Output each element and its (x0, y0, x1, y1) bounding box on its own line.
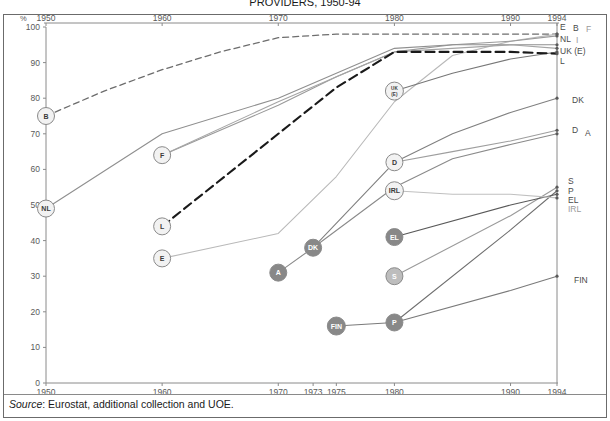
y-tick-label: 90 (31, 58, 41, 68)
series-line-l (162, 52, 557, 226)
x-tick-bottom-label: 1950 (37, 387, 56, 397)
x-tick-top-label: 1950 (37, 13, 56, 23)
series-line-uke (394, 52, 557, 91)
source-note: Source: Eurostat, additional collection … (9, 398, 234, 410)
end-label-nl: NL (560, 34, 571, 44)
series-endpoint-a (555, 132, 558, 135)
end-label-fin: FIN (574, 275, 588, 285)
x-tick-bottom-label: 1960 (153, 387, 172, 397)
end-label-dk: DK (572, 95, 584, 105)
y-tick-label: 20 (31, 307, 41, 317)
series-line-p (394, 191, 557, 323)
end-label-f: F (586, 24, 591, 34)
series-line-i (162, 45, 557, 155)
series-line-s (394, 187, 557, 276)
y-tick-label: 100 (26, 22, 40, 32)
series-endpoint-i (555, 47, 558, 50)
end-label-b: B (573, 23, 579, 33)
series-endpoint-dk (555, 97, 558, 100)
x-tick-top-label: 1990 (501, 13, 520, 23)
series-endpoint-p (555, 189, 558, 192)
series-endpoint-irl (555, 196, 558, 199)
series-line-el (394, 194, 557, 237)
end-label-irl: IRL (568, 204, 582, 214)
marker-dk-label: DK (308, 244, 318, 251)
x-tick-top-label: 1970 (269, 13, 288, 23)
x-tick-top-label: 1960 (153, 13, 172, 23)
y-tick-label: 60 (31, 164, 41, 174)
marker-fin-label: FIN (331, 323, 342, 330)
end-label-uke: UK (E) (560, 46, 586, 56)
marker-irl-label: IRL (389, 187, 401, 194)
marker-uke-label-2: (E) (391, 92, 398, 97)
marker-f-label: F (160, 152, 165, 159)
x-tick-bottom-label: 1973 (304, 387, 323, 397)
marker-p-label: P (392, 319, 397, 326)
marker-uke-label: UK (391, 86, 398, 91)
source-divider (4, 394, 606, 395)
series-endpoint-fin (555, 275, 558, 278)
marker-el-label: EL (390, 234, 400, 241)
marker-s-label: S (392, 273, 397, 280)
chart-page: PROVIDERS, 1950-94 010203040506070809010… (0, 0, 610, 421)
marker-l-label: L (160, 223, 165, 230)
series-line-irl (394, 191, 557, 198)
series-endpoint-nl (555, 43, 558, 46)
series-endpoint-el (555, 193, 558, 196)
series-line-f (162, 36, 557, 155)
y-tick-label: 40 (31, 236, 41, 246)
series-endpoint-f (555, 34, 558, 37)
series-line-d (394, 130, 557, 162)
end-label-i: I (576, 35, 578, 45)
y-tick-label: 10 (31, 342, 41, 352)
series-endpoint-l (555, 52, 558, 55)
marker-e-label: E (160, 255, 165, 262)
y-axis-unit: % (20, 14, 27, 23)
series-endpoint-s (555, 186, 558, 189)
marker-b-label: B (43, 113, 48, 120)
y-tick-label: 30 (31, 271, 41, 281)
source-label: Source (9, 398, 42, 410)
end-label-e: E (560, 22, 566, 32)
y-tick-label: 70 (31, 129, 41, 139)
marker-d-label: D (392, 159, 397, 166)
y-tick-label: 80 (31, 93, 41, 103)
series-line-fin (336, 276, 557, 326)
series-endpoint-d (555, 129, 558, 132)
x-tick-bottom-label: 1970 (269, 387, 288, 397)
end-label-s: S (568, 176, 574, 186)
x-tick-top-label: 1980 (385, 13, 404, 23)
series-line-nl (46, 45, 557, 209)
x-tick-bottom-label: 1994 (548, 387, 567, 397)
marker-nl-label: NL (41, 205, 51, 212)
x-tick-bottom-label: 1980 (385, 387, 404, 397)
x-tick-bottom-label: 1975 (327, 387, 346, 397)
end-label-a: A (585, 128, 591, 138)
x-tick-bottom-label: 1990 (501, 387, 520, 397)
end-label-l: L (560, 56, 565, 66)
series-line-e (162, 34, 557, 258)
end-label-d: D (572, 125, 578, 135)
marker-a-label: A (276, 269, 281, 276)
source-text: : Eurostat, additional collection and UO… (42, 398, 233, 410)
line-chart-canvas: 0102030405060708090100%19501960197019801… (0, 0, 610, 421)
